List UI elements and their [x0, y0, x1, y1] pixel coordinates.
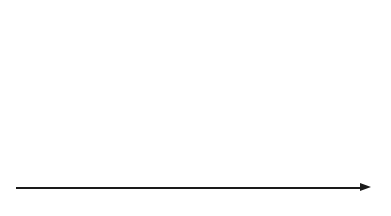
- timeline-axis-line: [16, 187, 362, 189]
- timeline-axis-arrow-icon: [360, 183, 371, 191]
- timeline-chart: [0, 0, 391, 216]
